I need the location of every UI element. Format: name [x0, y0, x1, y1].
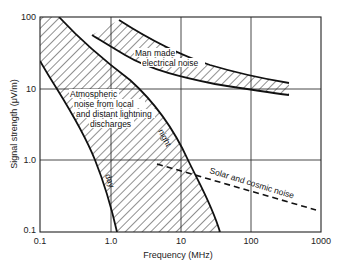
ytick-1: 1.0 [23, 155, 36, 165]
xtick-100: 100 [243, 236, 258, 246]
atmospheric-label-4: discharges [90, 119, 131, 129]
ytick-10: 10 [26, 84, 36, 94]
man-made-label-1: Man made [135, 48, 175, 58]
ytick-100: 100 [21, 12, 36, 22]
atmospheric-label-2: noise from local [74, 99, 134, 109]
y-axis-label: Signal strength (μV/m) [9, 79, 19, 169]
y-axis-ticks: 100 10 1.0 0.1 [21, 12, 36, 235]
atmospheric-label-3: and distant lightning [76, 109, 152, 119]
xtick-1: 1.0 [105, 236, 118, 246]
x-axis-ticks: 0.1 1.0 10 100 1000 [34, 236, 331, 246]
ytick-0.1: 0.1 [23, 225, 36, 235]
man-made-label-2: electrical noise [142, 58, 198, 68]
noise-chart: Man made electrical noise Atmospheric no… [0, 0, 344, 273]
x-axis-label: Frequency (MHz) [143, 250, 213, 260]
atmospheric-label-1: Atmospheric [70, 89, 118, 99]
xtick-0.1: 0.1 [34, 236, 47, 246]
solar-cosmic-label: Solar and cosmic noise [208, 165, 295, 200]
xtick-1000: 1000 [311, 236, 331, 246]
xtick-10: 10 [176, 236, 186, 246]
